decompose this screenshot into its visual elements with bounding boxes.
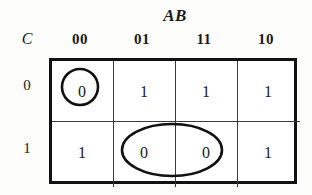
kmap-cell-r0c2[interactable]: 1 [175, 60, 237, 123]
row-group-label-c: C [12, 30, 42, 48]
kmap-cell-r1c0[interactable]: 1 [51, 121, 113, 184]
column-group-label-ab: AB [0, 6, 312, 26]
column-header-10: 10 [235, 31, 297, 48]
column-header-00: 00 [49, 31, 111, 48]
kmap-cell-r1c1[interactable]: 0 [113, 121, 175, 184]
kmap-grid: 0 1 1 1 1 0 0 1 [49, 58, 297, 184]
kmap-cell-r0c3[interactable]: 1 [237, 60, 299, 123]
kmap-cell-r1c2[interactable]: 0 [175, 121, 237, 184]
kmap-cell-r0c1[interactable]: 1 [113, 60, 175, 123]
row-header-1: 1 [12, 140, 42, 157]
row-header-0: 0 [12, 77, 42, 94]
column-header-11: 11 [173, 31, 235, 48]
karnaugh-map: AB C 00 01 11 10 0 1 0 1 1 1 1 0 0 1 [0, 0, 312, 195]
column-header-01: 01 [111, 31, 173, 48]
kmap-cell-r1c3[interactable]: 1 [237, 121, 299, 184]
kmap-cell-r0c0[interactable]: 0 [51, 60, 113, 123]
